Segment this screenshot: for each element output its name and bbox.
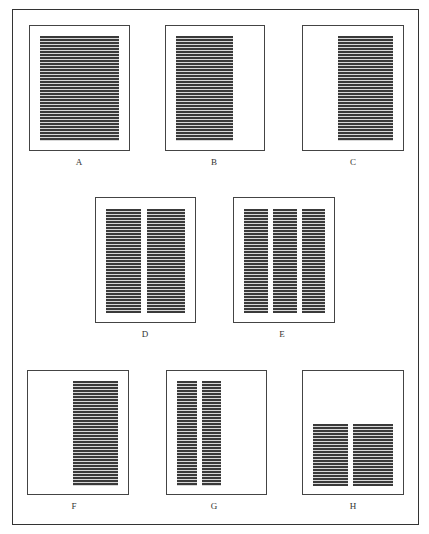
panel-label-f: F bbox=[54, 501, 94, 511]
text-column bbox=[338, 36, 393, 141]
panel-label-e: E bbox=[262, 329, 302, 339]
text-column bbox=[302, 209, 325, 313]
text-column bbox=[244, 209, 268, 313]
panel-label-d: D bbox=[125, 329, 165, 339]
text-column bbox=[273, 209, 297, 313]
text-column bbox=[73, 381, 118, 486]
text-column bbox=[177, 381, 197, 486]
panel-label-b: B bbox=[194, 157, 234, 167]
text-column bbox=[353, 424, 393, 486]
panel-label-g: G bbox=[194, 501, 234, 511]
text-column bbox=[106, 209, 141, 313]
panel-label-h: H bbox=[333, 501, 373, 511]
panel-label-a: A bbox=[59, 157, 99, 167]
panel-label-c: C bbox=[333, 157, 373, 167]
text-column bbox=[202, 381, 221, 486]
text-column bbox=[176, 36, 233, 141]
text-column bbox=[147, 209, 185, 313]
text-column bbox=[313, 424, 348, 486]
text-column bbox=[40, 36, 119, 141]
